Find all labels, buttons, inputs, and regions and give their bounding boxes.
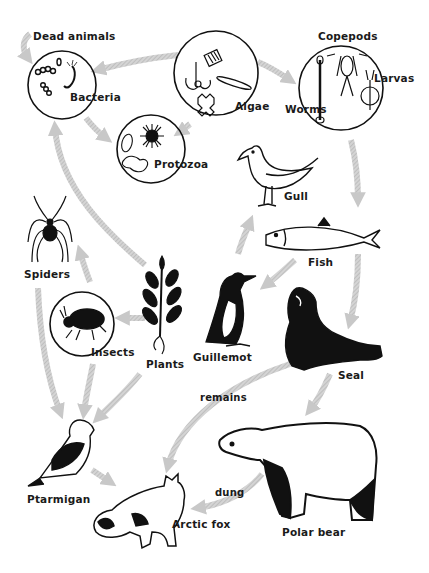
label-algae: Algae [235,100,269,112]
bacteria-node [28,51,96,119]
arrow-insects-ptarmigan [84,364,93,412]
label-polar-bear: Polar bear [282,526,345,538]
arrow-seal-bear [310,374,330,410]
spider-icon [28,196,72,262]
arrow-algae-bacteria [98,55,178,70]
arrow-dead-animals-bacteria [24,34,30,58]
arrow-algae-protozoa [180,124,190,132]
arrow-bacteria-protozoa [86,118,106,138]
label-copepods: Copepods [318,30,378,42]
arrow-copepods-fish [351,140,358,200]
label-seal: Seal [338,369,364,381]
fish-icon [266,218,380,250]
seal-icon [286,288,382,370]
insects-icon [60,306,106,340]
label-guillemot: Guillemot [193,351,252,363]
label-spiders: Spiders [24,268,70,280]
label-dead-animals: Dead animals [33,30,116,42]
label-bacteria: Bacteria [70,91,121,103]
label-insects: Insects [91,346,135,358]
plants-icon [140,256,185,354]
label-fish: Fish [308,256,333,268]
guillemot-icon [206,273,256,346]
label-ptarmigan: Ptarmigan [27,493,90,505]
arctic-fox-icon [94,474,185,548]
arrow-fish-guillemot [266,260,295,285]
arrow-fish-seal [350,254,358,322]
label-worms: Worms [285,103,327,115]
arrow-guillemot-gull [238,222,250,254]
arrow-ptarmigan-fox [92,470,110,482]
arrow-plants-ptarmigan [98,374,140,418]
arrow-insects-spiders [80,252,90,282]
arrow-algae-copepods [258,62,290,80]
label-remains: remains [200,392,247,403]
polar-bear-icon [219,423,376,520]
bacteria-icon [36,59,78,96]
arrow-spiders-ptarmigan [38,288,60,412]
label-larvas: Larvas [374,72,414,84]
label-gull: Gull [284,190,308,202]
label-protozoa: Protozoa [154,158,208,170]
protozoa-node [117,115,185,183]
copepods-node [299,46,383,130]
label-plants: Plants [146,358,184,370]
arrow-plants-bacteria [55,128,145,265]
ptarmigan-icon [28,420,94,486]
label-dung: dung [215,487,244,498]
label-arctic-fox: Arctic fox [172,518,231,530]
